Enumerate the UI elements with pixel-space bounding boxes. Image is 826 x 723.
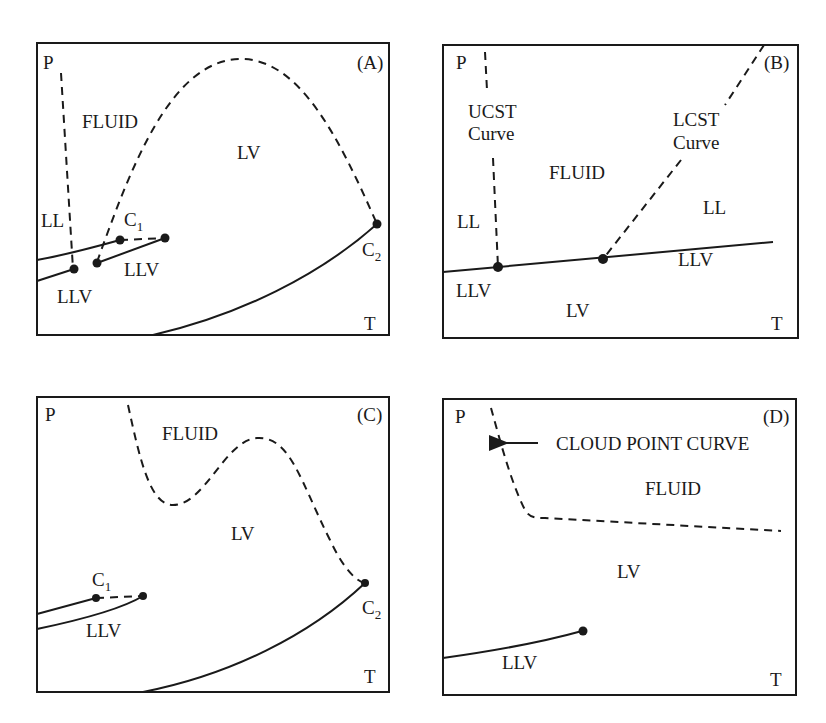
- panel-a: P (A) FLUID LV LL C1 LLV LLV C2 T: [37, 43, 389, 335]
- phase-diagram-figure: P (A) FLUID LV LL C1 LLV LLV C2 T P (B) …: [0, 0, 826, 723]
- ucst-label-line2: Curve: [468, 123, 514, 144]
- vapor-pressure-curve: [153, 224, 377, 335]
- ucst-dashed-line: [61, 73, 73, 269]
- panel-d: P (D) CLOUD POINT CURVE FLUID LV LLV T: [443, 399, 796, 695]
- region-llv: LLV: [502, 652, 537, 673]
- cloud-point-label: CLOUD POINT CURVE: [556, 433, 749, 454]
- lcst-label-line2: Curve: [673, 132, 719, 153]
- panel-tag: (B): [764, 52, 789, 74]
- lcst-dashed-lower: [603, 160, 681, 259]
- c1-dashed-connector: [96, 596, 143, 598]
- panel-tag: (A): [357, 52, 383, 74]
- region-ll-right: LL: [703, 197, 726, 218]
- panel-tag: (D): [763, 406, 789, 428]
- lcst-label-line1: LCST: [673, 109, 720, 130]
- axis-p-label: P: [455, 406, 466, 427]
- c2-label: C2: [362, 597, 381, 622]
- panel-b-frame: [443, 45, 798, 338]
- c2-point: [361, 579, 369, 587]
- region-lv: LV: [566, 300, 590, 321]
- ucep-point: [493, 262, 503, 272]
- axis-p-label: P: [456, 52, 467, 73]
- ucst-dashed-upper: [485, 52, 487, 90]
- c1-end-point: [161, 234, 170, 243]
- vapor-pressure-curve: [143, 583, 365, 692]
- axis-p-label: P: [45, 404, 56, 425]
- region-llv-right: LLV: [124, 259, 159, 280]
- llv-line: [443, 242, 773, 272]
- axis-t-label: T: [771, 313, 783, 334]
- region-fluid: FLUID: [549, 162, 605, 183]
- region-ll: LL: [41, 210, 64, 231]
- region-fluid: FLUID: [162, 423, 218, 444]
- ucst-dashed-lower: [493, 158, 498, 267]
- axis-t-label: T: [770, 669, 782, 690]
- region-lv: LV: [237, 142, 261, 163]
- cloud-point-dashed-curve: [491, 408, 781, 531]
- c1-label: C1: [124, 209, 143, 234]
- axis-t-label: T: [364, 313, 376, 334]
- panel-b: P (B) UCST Curve LCST Curve FLUID LL LL …: [443, 45, 798, 338]
- region-llv-left: LLV: [57, 286, 92, 307]
- region-llv: LLV: [86, 620, 121, 641]
- c2-label: C2: [362, 239, 381, 264]
- axis-p-label: P: [43, 52, 54, 73]
- c1-label: C1: [92, 569, 111, 594]
- llv-left-line: [37, 269, 74, 281]
- llv-endpoint: [93, 259, 102, 268]
- c1-point: [92, 594, 100, 602]
- panel-tag: (C): [357, 404, 382, 426]
- region-lv: LV: [231, 523, 255, 544]
- lcep-point: [598, 254, 608, 264]
- region-lv: LV: [617, 561, 641, 582]
- panel-c: P (C) FLUID LV C1 LLV C2 T: [37, 397, 389, 692]
- region-ll-left: LL: [457, 211, 480, 232]
- llv-end-point: [139, 592, 147, 600]
- lcst-dashed-upper: [725, 45, 764, 105]
- llv-upper-line: [37, 240, 120, 260]
- ucst-label-line1: UCST: [468, 101, 517, 122]
- region-fluid: FLUID: [645, 478, 701, 499]
- region-fluid: FLUID: [82, 111, 138, 132]
- region-llv-left: LLV: [456, 280, 491, 301]
- c1-point: [116, 236, 125, 245]
- llv-end-point: [579, 627, 588, 636]
- c2-point: [373, 220, 382, 229]
- axis-t-label: T: [364, 666, 376, 687]
- llv-upper-line: [37, 598, 96, 614]
- ucst-endpoint: [70, 265, 79, 274]
- region-llv-right: LLV: [678, 249, 713, 270]
